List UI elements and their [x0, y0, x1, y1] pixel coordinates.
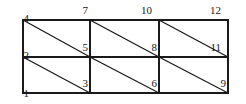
node-11-label: 11 [205, 42, 221, 53]
node-3-label: 3 [72, 78, 88, 89]
node-2-label: 2 [13, 50, 29, 61]
node-10-label: 10 [136, 5, 152, 16]
node-6-label: 6 [141, 78, 157, 89]
node-9-label: 9 [210, 78, 226, 89]
node-5-label: 5 [72, 42, 88, 53]
node-8-label: 8 [141, 42, 157, 53]
node-4-label: 4 [13, 13, 29, 24]
mesh-figure: 123456789101112 [0, 0, 246, 104]
node-1-label: 1 [13, 88, 29, 99]
node-12-label: 12 [205, 5, 221, 16]
node-7-label: 7 [72, 5, 88, 16]
horizontal-edges [23, 20, 228, 93]
